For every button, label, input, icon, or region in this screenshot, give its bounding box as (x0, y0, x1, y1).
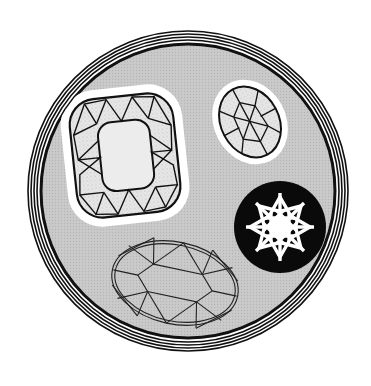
round-brilliant-gem (234, 181, 326, 273)
cushion-cut-gem (57, 81, 193, 230)
gem-emblem (0, 0, 371, 386)
